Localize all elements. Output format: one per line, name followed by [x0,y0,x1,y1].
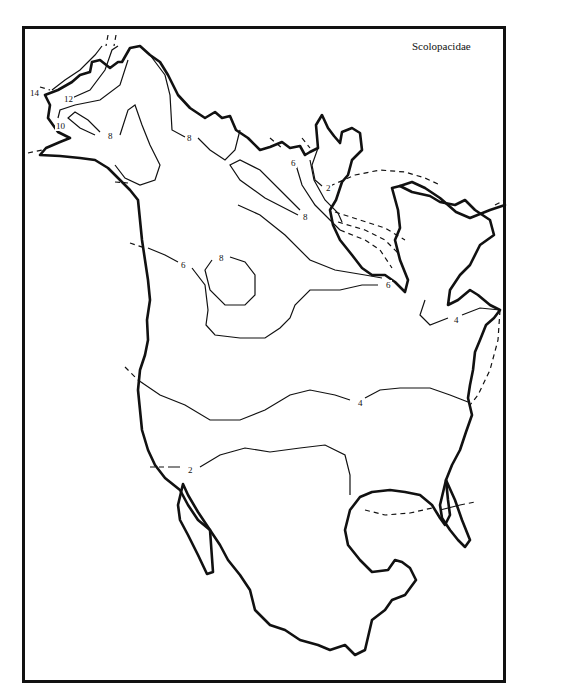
dash-contour-10-top [114,35,116,46]
dash-contour-14 [40,87,50,90]
coastline-florida [440,480,470,547]
contour-2-main [172,445,350,495]
contour-label-14: 14 [29,88,40,98]
dash-gulf [365,508,432,515]
contour-label-8-alaska: 8 [107,131,114,141]
dash-contour-12-top [106,35,108,46]
dash-gulf-east [460,502,475,505]
contour-label-8-north: 8 [186,133,193,143]
contour-label-2-hudson: 2 [325,183,332,193]
contour-label-8-keewatin: 8 [302,212,309,222]
contour-label-12: 12 [63,94,74,104]
dash-arctic-2 [302,138,310,148]
contour-8-alaska [68,112,100,135]
contour-label-2-south: 2 [187,465,194,475]
contour-12 [72,46,118,98]
north-america-map [0,0,583,698]
contour-label-6-hudson: 6 [290,158,297,168]
dash-west-coast-4 [125,367,138,380]
contour-8-prairie [205,257,255,305]
coastline-labrador [400,182,505,218]
contour-label-6-east: 6 [385,280,392,290]
dash-labrador-1 [335,212,405,240]
contour-10 [58,60,128,118]
contour-8-yukon [115,105,160,185]
contour-8-arctic [198,130,240,160]
dash-alaska-south [28,150,42,153]
contour-label-4-central: 4 [357,398,364,408]
contour-label-8-prairie: 8 [218,253,225,263]
contour-4-main [138,380,468,420]
contour-label-4-east: 4 [453,315,460,325]
contour-label-10: 10 [55,121,66,131]
contour-label-6-west: 6 [180,260,187,270]
